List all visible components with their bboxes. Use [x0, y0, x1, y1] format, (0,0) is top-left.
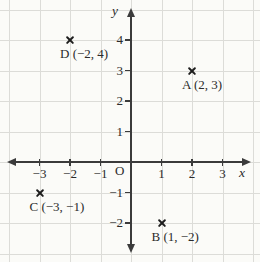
grid-line-horizontal: [0, 254, 260, 255]
x-axis-tick: [69, 159, 71, 166]
x-axis-tick: [39, 159, 41, 166]
y-axis-tick: [125, 222, 131, 224]
y-axis-tick-label: 2: [95, 93, 123, 109]
point-label: B (1, −2): [152, 229, 199, 245]
y-axis-tick: [125, 70, 131, 72]
y-axis-tick-label: −1: [95, 185, 123, 201]
x-axis-tick-label: −2: [58, 166, 82, 182]
x-axis-tick: [222, 159, 224, 166]
x-axis: [10, 161, 248, 163]
x-axis-tick-label: −3: [28, 166, 52, 182]
y-axis-tick: [125, 100, 131, 102]
y-axis-tick: [125, 131, 131, 133]
y-axis-label: y: [112, 3, 118, 19]
x-axis-left-arrow-icon: [7, 158, 16, 166]
x-axis-tick: [161, 159, 163, 166]
y-axis-up-arrow-icon: [127, 8, 135, 17]
point-marker-cross-icon: [187, 65, 198, 76]
y-axis-tick-label: −2: [95, 215, 123, 231]
y-axis-tick: [125, 192, 131, 194]
plot-area: x y O −3−2−11234321−1−2D (−2, 4)A (2, 3)…: [0, 0, 260, 262]
x-axis-tick-label: 1: [150, 166, 174, 182]
point-label: C (−3, −1): [30, 199, 85, 215]
x-axis-tick-label: 2: [180, 166, 204, 182]
x-axis-tick: [191, 159, 193, 166]
coordinate-plane-figure: x y O −3−2−11234321−1−2D (−2, 4)A (2, 3)…: [0, 0, 260, 262]
x-axis-tick-label: 3: [211, 166, 235, 182]
x-axis-label: x: [239, 165, 245, 181]
y-axis-tick-label: 3: [95, 63, 123, 79]
x-axis-tick: [100, 159, 102, 166]
y-axis-tick: [125, 39, 131, 41]
x-axis-tick-label: −1: [89, 166, 113, 182]
point-label: D (−2, 4): [60, 46, 108, 62]
y-axis-tick-label: 1: [95, 124, 123, 140]
y-axis-down-arrow-icon: [127, 244, 135, 253]
point-marker-cross-icon: [34, 187, 45, 198]
point-marker-cross-icon: [156, 218, 167, 229]
point-marker-cross-icon: [65, 35, 76, 46]
point-label: A (2, 3): [182, 77, 222, 93]
origin-label: O: [115, 163, 124, 179]
